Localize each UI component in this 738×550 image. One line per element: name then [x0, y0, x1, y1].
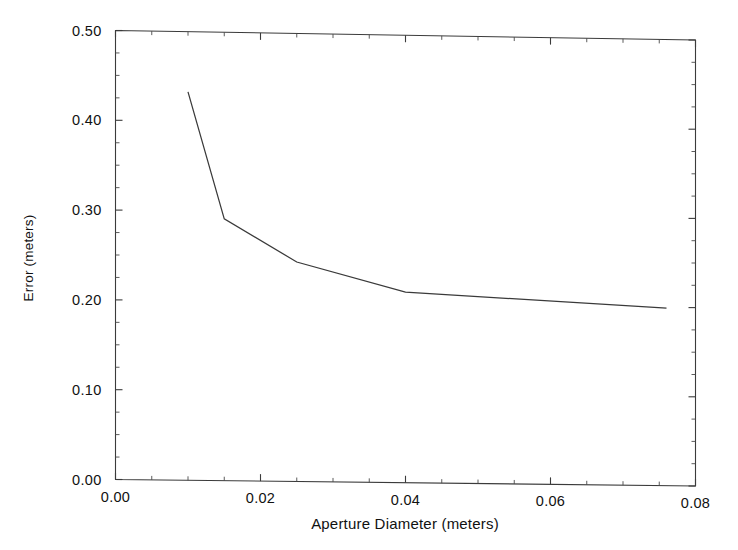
chart-background: [0, 0, 738, 550]
x-tick-label: 0.08: [681, 495, 710, 511]
error-vs-aperture-chart: 0.000.100.200.300.400.50 0.000.020.040.0…: [0, 0, 738, 550]
y-tick-label: 0.00: [72, 472, 101, 488]
y-tick-label: 0.50: [72, 23, 101, 39]
y-tick-label: 0.10: [72, 382, 101, 398]
y-tick-label: 0.20: [72, 292, 101, 308]
x-axis-title: Aperture Diameter (meters): [311, 515, 499, 532]
x-tick-label: 0.06: [536, 493, 565, 509]
y-tick-label: 0.30: [72, 202, 101, 218]
y-tick-label: 0.40: [72, 112, 101, 128]
x-tick-label: 0.00: [101, 489, 130, 505]
x-tick-label: 0.04: [391, 492, 420, 508]
x-tick-label: 0.02: [246, 490, 275, 506]
y-axis-title: Error (meters): [21, 215, 36, 302]
